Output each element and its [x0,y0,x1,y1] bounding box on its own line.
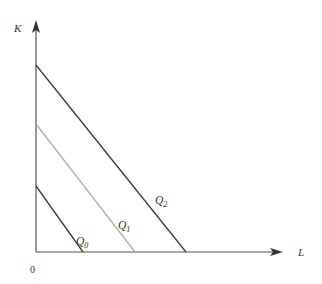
origin-label: 0 [30,264,35,275]
y-axis-label: K [13,22,22,34]
isoquant-line-q2 [36,65,186,252]
isoquant-label-q2-subscript: 2 [163,200,167,209]
figure-canvas: K L 0 Q0 Q1 Q2 [0,0,322,284]
isoquant-figure: K L 0 Q0 Q1 Q2 [0,0,322,284]
isoquant-label-q2: Q2 [155,194,167,209]
isoquant-label-q0: Q0 [76,235,88,250]
x-axis-label: L [297,246,304,258]
isoquant-label-q0-subscript: 0 [84,241,88,250]
isoquant-label-q1-subscript: 1 [126,225,130,234]
isoquant-line-q1 [36,124,135,252]
